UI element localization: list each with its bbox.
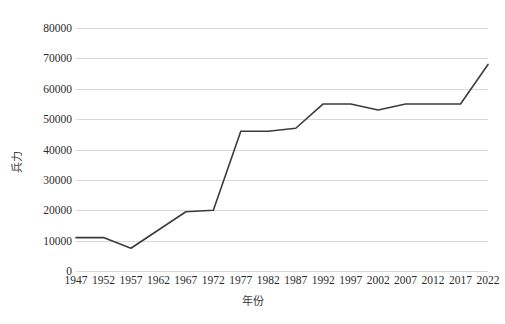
x-axis-tick-label: 2002: [367, 274, 390, 286]
y-axis-title: 兵力: [6, 0, 26, 324]
y-axis-tick-label: 20000: [43, 204, 72, 216]
y-axis-tick-label: 80000: [43, 22, 72, 34]
x-axis-tick-label: 1972: [202, 274, 225, 286]
x-axis-tick-label: 2022: [477, 274, 500, 286]
x-axis-tick-label: 1992: [312, 274, 335, 286]
y-axis-title-label: 兵力: [8, 151, 24, 173]
x-axis-tick-label: 1987: [284, 274, 307, 286]
x-axis-tick-label: 1967: [174, 274, 197, 286]
x-axis-tick-label: 2012: [422, 274, 445, 286]
x-axis-tick-label: 1977: [229, 274, 252, 286]
y-axis-tick-label: 30000: [43, 174, 72, 186]
gridline: [76, 271, 488, 272]
y-axis-tick-label: 60000: [43, 83, 72, 95]
x-axis-tick-label: 1962: [147, 274, 170, 286]
y-axis-tick-label: 50000: [43, 113, 72, 125]
y-axis-tick-label: 40000: [43, 144, 72, 156]
chart-container: 兵力 0100002000030000400005000060000700008…: [0, 0, 505, 324]
x-axis-tick-labels: 1947195219571962196719721977198219871992…: [76, 274, 488, 292]
series-line: [76, 64, 488, 248]
y-axis-tick-label: 10000: [43, 235, 72, 247]
x-axis-tick-label: 2017: [449, 274, 472, 286]
x-axis-tick-label: 1957: [119, 274, 142, 286]
line-series-svg: [76, 28, 488, 271]
y-axis-tick-label: 70000: [43, 52, 72, 64]
x-axis-tick-label: 2007: [394, 274, 417, 286]
plot-area: [76, 28, 488, 271]
x-axis-tick-label: 1947: [65, 274, 88, 286]
x-axis-tick-label: 1997: [339, 274, 362, 286]
x-axis-tick-label: 1982: [257, 274, 280, 286]
x-axis-tick-label: 1952: [92, 274, 115, 286]
x-axis-title: 年份: [0, 292, 505, 308]
